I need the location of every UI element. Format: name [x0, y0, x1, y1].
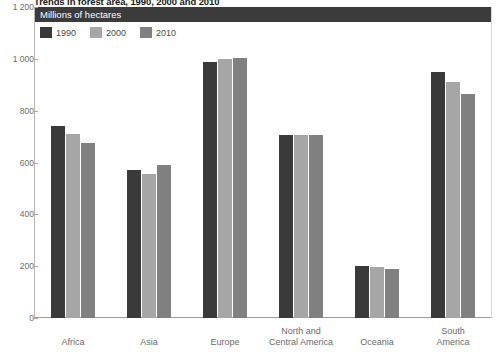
y-axis-tick-label: 600 — [4, 158, 34, 168]
bar-oceania-2010 — [385, 269, 399, 319]
x-axis-label-line: South — [415, 326, 491, 337]
x-axis-label-line: Europe — [187, 337, 263, 348]
bar-north-and-central-america-2010 — [309, 135, 323, 318]
y-axis-tick-label: 200 — [4, 261, 34, 271]
bar-north-and-central-america-2000 — [294, 135, 308, 318]
bar-africa-2010 — [81, 143, 95, 318]
x-axis-label-line: Asia — [111, 337, 187, 348]
y-axis-tick-label: 1 200 — [4, 2, 34, 12]
bar-south-america-2010 — [461, 94, 475, 318]
x-axis-label-line: Oceania — [339, 337, 415, 348]
y-axis-tick-label: 1 000 — [4, 54, 34, 64]
bar-asia-2000 — [142, 174, 156, 318]
chart-container: Trends in forest area, 1990, 2000 and 20… — [0, 0, 501, 357]
x-axis-label-line: Africa — [35, 337, 111, 348]
x-axis-label-north-and: North andCentral America — [263, 326, 339, 348]
bar-europe-2010 — [233, 58, 247, 318]
x-axis-label-asia: Asia — [111, 326, 187, 348]
bar-south-america-1990 — [431, 72, 445, 318]
x-axis-label-line: North and — [263, 326, 339, 337]
y-axis-tick-label: 0 — [4, 313, 34, 323]
y-axis-tick-label: 800 — [4, 106, 34, 116]
bars-layer — [35, 7, 491, 318]
x-axis-label-oceania: Oceania — [339, 326, 415, 348]
x-axis-label-europe: Europe — [187, 326, 263, 348]
x-axis-label-south: SouthAmerica — [415, 326, 491, 348]
bar-africa-2000 — [66, 134, 80, 318]
y-axis-tick-label: 400 — [4, 209, 34, 219]
bar-africa-1990 — [51, 126, 65, 318]
y-axis-tick-mark — [34, 318, 38, 319]
bar-europe-2000 — [218, 59, 232, 318]
bar-asia-2010 — [157, 165, 171, 318]
bar-north-and-central-america-1990 — [279, 135, 293, 318]
y-axis: 02004006008001 0001 200 — [0, 0, 34, 357]
bar-europe-1990 — [203, 62, 217, 318]
x-axis-label-line: Central America — [263, 337, 339, 348]
bar-south-america-2000 — [446, 82, 460, 318]
bar-asia-1990 — [127, 170, 141, 319]
x-axis-label-line: America — [415, 337, 491, 348]
x-axis-labels: AfricaAsiaEuropeNorth andCentral America… — [35, 326, 491, 356]
bar-oceania-2000 — [370, 267, 384, 318]
x-axis-label-africa: Africa — [35, 326, 111, 348]
bar-oceania-1990 — [355, 266, 369, 318]
